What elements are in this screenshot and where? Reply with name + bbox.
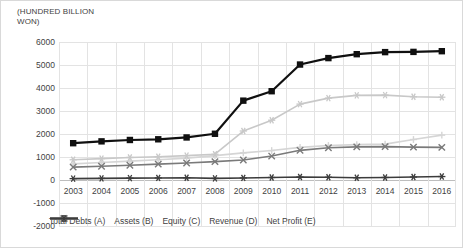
- legend-label: Net Profit (E): [266, 216, 315, 226]
- legend-label: Revenue (D): [209, 216, 257, 226]
- y-tick-6000: 6000: [9, 37, 55, 47]
- data-point-star: [410, 94, 417, 100]
- series-total-debts-a: [70, 132, 445, 168]
- data-point-asterisk: [60, 215, 67, 221]
- data-point-asterisk: [296, 174, 303, 180]
- x-tick-2006: 2006: [149, 186, 168, 196]
- legend-item[interactable]: Net Profit (E): [266, 216, 315, 226]
- data-point-asterisk: [183, 175, 190, 181]
- data-point-square: [410, 49, 416, 55]
- data-point-square: [70, 140, 76, 146]
- x-tick-2016: 2016: [432, 186, 451, 196]
- x-tick-2012: 2012: [319, 186, 338, 196]
- x-tick-2011: 2011: [291, 186, 309, 196]
- data-point-square: [98, 138, 104, 144]
- data-point-asterisk: [353, 175, 360, 181]
- legend-label: Assets (B): [114, 216, 153, 226]
- data-point-plus: [410, 136, 417, 143]
- x-tick-2013: 2013: [347, 186, 366, 196]
- line-chart: (HUNDRED BILLION WON) 600050004000300020…: [0, 0, 463, 248]
- chart-legend: Total Debts (A)Assets (B)Equity (C)Reven…: [49, 213, 449, 229]
- data-point-asterisk: [211, 175, 218, 181]
- x-tick-2015: 2015: [404, 186, 423, 196]
- x-tick-2009: 2009: [234, 186, 253, 196]
- data-point-square: [325, 55, 331, 61]
- data-point-square: [212, 131, 218, 137]
- data-point-asterisk: [70, 176, 77, 182]
- y-axis-title: (HUNDRED BILLION WON): [17, 7, 97, 27]
- data-point-asterisk: [126, 175, 133, 181]
- data-point-square: [127, 137, 133, 143]
- data-point-plus: [98, 159, 105, 166]
- data-point-plus: [240, 149, 247, 156]
- data-point-square: [183, 134, 189, 140]
- legend-item[interactable]: Equity (C): [162, 216, 200, 226]
- x-tick-2014: 2014: [376, 186, 395, 196]
- y-tick-2000: 2000: [9, 129, 55, 139]
- y-tick-5000: 5000: [9, 60, 55, 70]
- y-axis-tick-labels: 6000500040003000200010000-1000-2000: [5, 42, 55, 226]
- y-tick-4000: 4000: [9, 83, 55, 93]
- data-point-square: [268, 88, 274, 94]
- data-point-asterisk: [155, 175, 162, 181]
- legend-item[interactable]: Revenue (D): [209, 216, 257, 226]
- x-tick-2010: 2010: [262, 186, 281, 196]
- legend-marker-asterisk: [49, 213, 79, 224]
- data-point-asterisk: [240, 175, 247, 181]
- data-point-asterisk: [382, 174, 389, 180]
- data-point-square: [240, 97, 246, 103]
- series-net-profit-e: [70, 173, 446, 181]
- data-point-square: [382, 49, 388, 55]
- data-point-square: [439, 48, 445, 54]
- series-assets-b: [70, 48, 445, 146]
- x-tick-2007: 2007: [177, 186, 196, 196]
- data-point-plus: [438, 132, 445, 139]
- data-point-square: [155, 136, 161, 142]
- x-tick-2004: 2004: [92, 186, 111, 196]
- x-tick-2003: 2003: [64, 186, 83, 196]
- data-point-asterisk: [268, 174, 275, 180]
- data-point-star: [353, 92, 360, 98]
- data-point-square: [297, 61, 303, 67]
- x-axis-tick-labels: 2003200420052006200720082009201020112012…: [59, 186, 456, 200]
- legend-item[interactable]: Assets (B): [114, 216, 153, 226]
- data-point-asterisk: [410, 174, 417, 180]
- data-point-asterisk: [325, 174, 332, 180]
- data-point-star: [325, 95, 332, 101]
- data-point-star: [438, 94, 445, 100]
- data-point-asterisk: [438, 173, 445, 179]
- data-point-asterisk: [98, 175, 105, 181]
- legend-label: Equity (C): [162, 216, 200, 226]
- x-tick-2005: 2005: [120, 186, 139, 196]
- y-tick-0: 0: [9, 175, 55, 185]
- y-tick--1000: -1000: [9, 198, 55, 208]
- y-tick-3000: 3000: [9, 106, 55, 116]
- data-point-star: [382, 92, 389, 98]
- x-tick-2008: 2008: [205, 186, 224, 196]
- data-point-square: [354, 51, 360, 57]
- y-tick-1000: 1000: [9, 152, 55, 162]
